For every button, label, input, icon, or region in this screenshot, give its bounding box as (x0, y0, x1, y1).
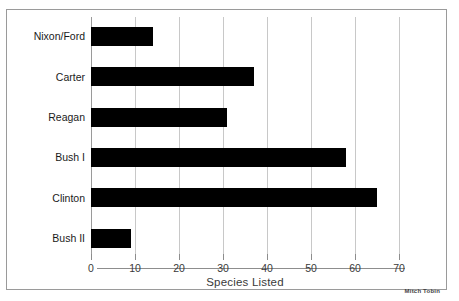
tick-mark (311, 254, 312, 260)
x-tick-label: 10 (115, 262, 155, 274)
gridline-10 (135, 17, 136, 259)
x-tick-label: 20 (159, 262, 199, 274)
gridline-20 (179, 17, 180, 259)
bar-clinton (91, 188, 377, 207)
category-label: Nixon/Ford (5, 30, 85, 42)
gridline-30 (223, 17, 224, 259)
gridline-60 (355, 17, 356, 259)
tick-mark (267, 254, 268, 260)
bar-carter (91, 67, 254, 86)
x-tick-label: 60 (335, 262, 375, 274)
category-label: Bush I (5, 151, 85, 163)
tick-mark (91, 254, 92, 260)
gridline-40 (267, 17, 268, 259)
tick-mark (135, 254, 136, 260)
category-label: Bush II (5, 232, 85, 244)
x-axis-title: Species Listed (91, 276, 399, 288)
x-tick-label: 50 (291, 262, 331, 274)
x-tick-label: 40 (247, 262, 287, 274)
category-label: Reagan (5, 111, 85, 123)
category-label: Clinton (5, 192, 85, 204)
attribution-label: Mitch Tobin (405, 288, 440, 294)
x-tick-label: 0 (71, 262, 111, 274)
category-label: Carter (5, 71, 85, 83)
gridline-70 (399, 17, 400, 259)
chart-frame: Nixon/FordCarterReaganBush IClintonBush … (6, 9, 447, 290)
tick-mark (355, 254, 356, 260)
x-tick-label: 70 (379, 262, 419, 274)
bar-nixon-ford (91, 27, 153, 46)
gridline-50 (311, 17, 312, 259)
bar-bush-ii (91, 229, 131, 248)
tick-mark (179, 254, 180, 260)
bar-bush-i (91, 148, 346, 167)
x-tick-label: 30 (203, 262, 243, 274)
gridline-0 (91, 17, 92, 259)
bar-reagan (91, 108, 227, 127)
tick-mark (399, 254, 400, 260)
tick-mark (223, 254, 224, 260)
